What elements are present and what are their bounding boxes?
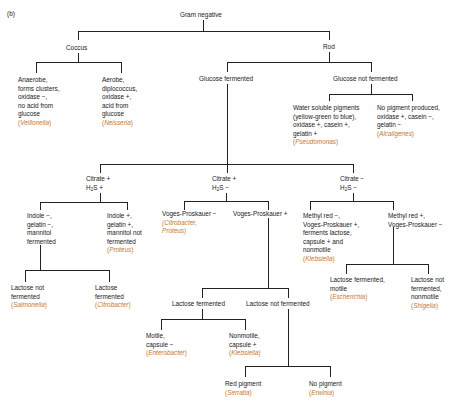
organism-klebsiella: Klebsiella [229,349,261,358]
node-klebsiella-nonmotile: Nonmotile, capsule + Klebsiella [229,332,261,358]
node-shigella: Lactose not fermented, nonmotile Shigell… [411,276,444,310]
node-voges-proskauer-negative: Voges-Proskauer − (Citrobacter, Proteus) [162,210,217,236]
organism-erwinia: Erwinia [309,389,342,398]
node-escherichia: Lactose fermented, motile Escherichia [330,276,385,302]
organism-veillonella: Veillonella [18,119,60,128]
node-citrate-neg-h2s-neg: Citrate − H2S − [340,175,364,192]
organism-serratia: Serratia [225,389,261,398]
node-alcaligenes: No pigment produced, oxidase +, casein −… [377,104,440,138]
organism-citrobacter: Citrobacter [95,301,131,310]
organism-enterobacter: Enterobacter [146,349,187,358]
figure-label: (b) [7,10,15,17]
node-methyl-red-negative-klebsiella: Methyl red −, Voges-Proskauer +, ferment… [303,212,359,263]
node-erwinia: No pigment Erwinia [309,380,342,397]
organism-escherichia: Escherichia [330,293,385,302]
organism-neisseria: Neisseria [102,119,137,128]
node-gram-negative: Gram negative [180,11,222,20]
node-citrate-pos-h2s-neg: Citrate + H2S − [212,175,236,192]
organism-shigella: Shigella [411,302,444,311]
node-pseudomonas: Water soluble pigments (yellow-green to … [293,104,360,147]
organism-salmonella: Salmonella [11,301,47,310]
node-citrate-pos-h2s-pos: Citrate + H2S + [86,175,110,192]
node-anaerobe-veillonella: Anaerobe, forms clusters, oxidase −, no … [18,76,60,127]
node-methyl-red-positive: Methyl red +, Voges-Proskauer − [388,212,443,229]
node-indole-negative: Indole −, gelatin −, mannitol fermented [27,212,56,246]
node-aerobe-neisseria: Aerobe, diplococcus, oxidase +, acid fro… [102,76,137,127]
connector-lines [0,0,456,409]
node-citrobacter: Lactose fermented Citrobacter [95,284,131,310]
node-voges-proskauer-positive: Voges-Proskauer + [233,210,288,219]
node-lactose-fermented: Lactose fermented [172,300,225,309]
node-salmonella: Lactose not fermented Salmonella [11,284,47,310]
node-glucose-not-fermented: Glucose not fermented [333,75,398,84]
node-enterobacter: Motile, capsule − Enterobacter [146,332,187,358]
organism-proteus: Proteus [107,246,142,255]
node-lactose-not-fermented: Lactose not fermented [246,300,310,309]
node-coccus: Coccus [66,44,87,53]
organism-alcaligenes: Alcaligenes [377,130,440,139]
organism-klebsiella: Klebsiella [303,255,359,264]
organism-pseudomonas: Pseudomonas [293,138,360,147]
node-serratia: Red pigment Serratia [225,380,261,397]
node-indole-positive-proteus: Indole +, gelatin +, mannitol not fermen… [107,212,142,255]
node-rod: Rod [323,43,335,52]
organism-citrobacter-proteus: (Citrobacter, [162,219,217,228]
node-glucose-fermented: Glucose fermented [199,75,253,84]
